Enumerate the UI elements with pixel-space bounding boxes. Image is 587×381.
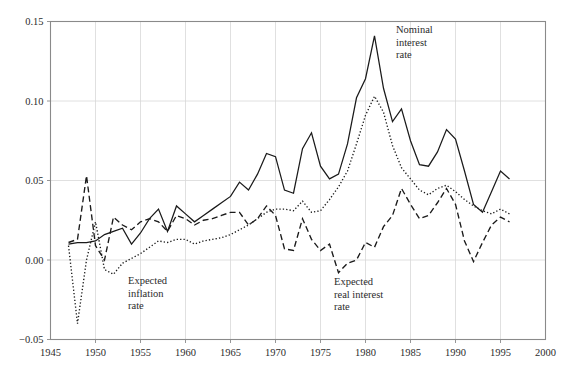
x-tick-label-2000: 2000 bbox=[535, 347, 556, 358]
nominal-label-line-2: rate bbox=[396, 49, 412, 60]
x-tick-label-1960: 1960 bbox=[175, 347, 196, 358]
x-tick-label-1950: 1950 bbox=[85, 347, 106, 358]
x-tick-label-1975: 1975 bbox=[310, 347, 331, 358]
x-tick-label-1995: 1995 bbox=[490, 347, 511, 358]
real-label-line-1: real interest bbox=[334, 289, 383, 300]
nominal-label-line-0: Nominal bbox=[396, 24, 433, 35]
real-label-line-2: rate bbox=[334, 301, 350, 312]
y-tick-label-0: 0.00 bbox=[25, 255, 43, 266]
inflation-label-line-1: inflation bbox=[128, 288, 164, 299]
y-tick-label-0p05: 0.05 bbox=[25, 175, 43, 186]
x-tick-label-1980: 1980 bbox=[355, 347, 376, 358]
chart-container: 1945195019551960196519701975198019851990… bbox=[0, 0, 587, 381]
inflation-label-line-0: Expected bbox=[128, 275, 168, 286]
x-tick-label-1965: 1965 bbox=[220, 347, 241, 358]
real-label-line-0: Expected bbox=[334, 276, 374, 287]
x-tick-label-1945: 1945 bbox=[40, 347, 61, 358]
x-tick-label-1955: 1955 bbox=[130, 347, 151, 358]
interest-rate-line-chart: 1945195019551960196519701975198019851990… bbox=[0, 0, 587, 381]
x-tick-label-1990: 1990 bbox=[445, 347, 466, 358]
nominal-label-line-1: interest bbox=[396, 37, 427, 48]
x-tick-label-1970: 1970 bbox=[265, 347, 286, 358]
inflation-label-line-2: rate bbox=[128, 300, 144, 311]
y-tick-label-0p1: 0.10 bbox=[25, 96, 43, 107]
x-tick-label-1985: 1985 bbox=[400, 347, 421, 358]
y-tick-label--0p05: −0.05 bbox=[19, 334, 43, 345]
y-tick-label-0p15: 0.15 bbox=[25, 16, 43, 27]
